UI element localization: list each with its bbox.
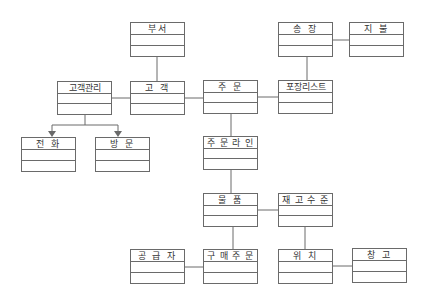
operations-section <box>350 46 403 56</box>
class-name: 공 급 자 <box>131 250 184 262</box>
class-name: 위 치 <box>279 250 332 262</box>
operations-section <box>22 161 75 171</box>
class-customer-management[interactable]: 고객관리 <box>57 81 112 115</box>
class-name: 부서 <box>131 23 184 35</box>
class-name: 고객관리 <box>58 82 111 94</box>
class-name: 창 고 <box>353 249 406 261</box>
operations-section <box>96 161 149 171</box>
attributes-section <box>279 206 332 217</box>
attributes-section <box>22 150 75 161</box>
class-order-line[interactable]: 주 문 라 인 <box>203 136 258 170</box>
class-customer[interactable]: 고 객 <box>130 81 185 115</box>
class-visit[interactable]: 방 문 <box>95 137 150 172</box>
class-name: 주 문 <box>204 81 257 93</box>
operations-section <box>204 216 257 226</box>
attributes-section <box>204 149 257 160</box>
operations-section <box>279 216 332 226</box>
class-name: 고 객 <box>131 82 184 94</box>
operations-section <box>131 273 184 283</box>
class-name: 물 품 <box>204 194 257 206</box>
attributes-section <box>279 35 332 46</box>
attributes-section <box>58 94 111 105</box>
class-name: 포장리스트 <box>279 81 332 93</box>
class-order[interactable]: 주 문 <box>203 80 258 114</box>
class-dept[interactable]: 부서 <box>130 22 185 57</box>
class-purchase-order[interactable]: 구 매 주 문 <box>203 249 258 284</box>
class-payment[interactable]: 지 불 <box>349 22 404 57</box>
attributes-section <box>131 94 184 105</box>
attributes-section <box>350 35 403 46</box>
operations-section <box>58 104 111 114</box>
operations-section <box>131 104 184 114</box>
attributes-section <box>279 262 332 273</box>
class-supplier[interactable]: 공 급 자 <box>130 249 185 284</box>
class-warehouse[interactable]: 창 고 <box>352 248 407 283</box>
class-name: 전 화 <box>22 138 75 150</box>
class-item[interactable]: 물 품 <box>203 193 258 227</box>
operations-section <box>353 272 406 282</box>
operations-section <box>204 273 257 283</box>
class-name: 방 문 <box>96 138 149 150</box>
attributes-section <box>353 261 406 272</box>
class-name: 구 매 주 문 <box>204 250 257 262</box>
class-location[interactable]: 위 치 <box>278 249 333 284</box>
attributes-section <box>279 93 332 104</box>
attributes-section <box>96 150 149 161</box>
operations-section <box>204 159 257 169</box>
operations-section <box>279 46 332 56</box>
operations-section <box>279 273 332 283</box>
class-name: 지 불 <box>350 23 403 35</box>
class-packing-list[interactable]: 포장리스트 <box>278 80 333 114</box>
operations-section <box>279 103 332 113</box>
attributes-section <box>131 262 184 273</box>
operations-section <box>131 46 184 56</box>
attributes-section <box>131 35 184 46</box>
class-invoice[interactable]: 송 장 <box>278 22 333 57</box>
attributes-section <box>204 262 257 273</box>
class-name: 재 고 수 준 <box>279 194 332 206</box>
operations-section <box>204 103 257 113</box>
class-phone[interactable]: 전 화 <box>21 137 76 172</box>
attributes-section <box>204 93 257 104</box>
class-stock-level[interactable]: 재 고 수 준 <box>278 193 333 227</box>
class-name: 송 장 <box>279 23 332 35</box>
attributes-section <box>204 206 257 217</box>
class-name: 주 문 라 인 <box>204 137 257 149</box>
